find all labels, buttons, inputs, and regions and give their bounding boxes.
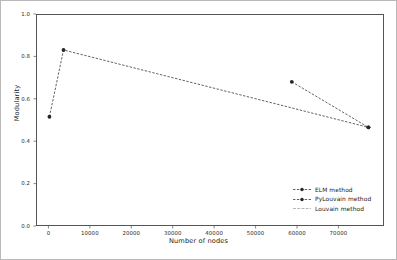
legend-item-2[interactable]: Louvain method bbox=[292, 204, 380, 214]
legend-swatch-icon bbox=[292, 204, 312, 213]
legend-label: Louvain method bbox=[312, 206, 364, 212]
chart-legend: ELM methodPyLouvain methodLouvain method bbox=[292, 185, 380, 214]
figure-canvas: Modularity 0.00.20.40.60.81.0 0100002000… bbox=[0, 0, 397, 260]
legend-item-0[interactable]: ELM method bbox=[292, 185, 380, 195]
legend-swatch-icon bbox=[292, 195, 312, 204]
legend-swatch-icon bbox=[292, 185, 312, 194]
legend-label: PyLouvain method bbox=[312, 196, 371, 202]
legend-label: ELM method bbox=[312, 187, 353, 193]
x-axis-title: Number of nodes bbox=[1, 237, 396, 245]
tick-marks bbox=[1, 1, 397, 260]
legend-item-1[interactable]: PyLouvain method bbox=[292, 195, 380, 205]
